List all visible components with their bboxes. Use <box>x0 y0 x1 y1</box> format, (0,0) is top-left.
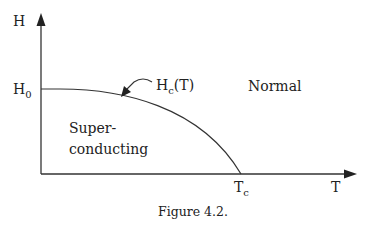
diagram-graphics <box>0 0 375 228</box>
curve-label-rest: (T) <box>174 77 194 93</box>
curve-label-sub: c <box>168 85 174 96</box>
curve-label-main: H <box>156 77 168 93</box>
curve-label: Hc(T) <box>156 78 194 92</box>
x-axis-arrow-icon <box>344 170 357 179</box>
region-normal-label: Normal <box>248 79 301 93</box>
tc-label: Tc <box>234 180 249 194</box>
y-axis-arrow-icon <box>37 13 46 26</box>
annotation-arrow <box>126 79 152 90</box>
region-super-line2: conducting <box>69 142 148 156</box>
h0-label: H0 <box>13 82 32 96</box>
tc-main: T <box>234 179 243 195</box>
phase-diagram: H H0 Hc(T) Normal Super- conducting Tc T… <box>0 0 375 228</box>
h0-sub: 0 <box>25 89 31 100</box>
y-axis-label: H <box>13 14 25 28</box>
tc-sub: c <box>243 187 249 198</box>
h0-main: H <box>13 81 25 97</box>
figure-caption: Figure 4.2. <box>158 206 228 219</box>
region-super-line1: Super- <box>69 121 116 135</box>
annotation-arrow-head-icon <box>121 86 131 97</box>
x-axis-label: T <box>331 180 340 194</box>
